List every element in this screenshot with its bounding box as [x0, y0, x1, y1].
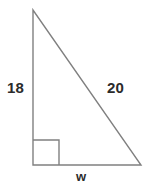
- label-base: w: [76, 170, 86, 183]
- triangle-shape: [33, 10, 141, 165]
- right-angle-marker: [33, 140, 59, 165]
- label-hypotenuse: 20: [107, 80, 124, 95]
- triangle-drawing: [0, 0, 144, 194]
- right-triangle-figure: 18 20 w: [0, 0, 144, 194]
- label-vertical-leg: 18: [7, 80, 24, 95]
